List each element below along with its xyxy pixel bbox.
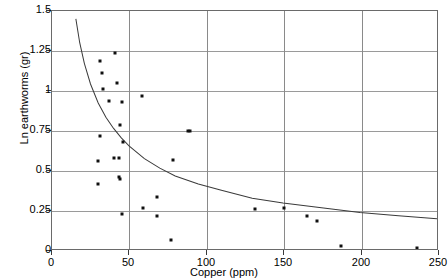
data-point (98, 59, 101, 62)
data-point (306, 214, 309, 217)
data-point (108, 99, 111, 102)
x-tick-mark (51, 250, 52, 255)
plot-area (51, 10, 438, 250)
data-point (102, 88, 105, 91)
x-tick-mark (128, 250, 129, 255)
data-point (156, 195, 159, 198)
x-tick-mark (206, 250, 207, 255)
y-tick-label: 0.25 (7, 204, 51, 215)
data-point (112, 157, 115, 160)
data-point (120, 213, 123, 216)
data-point (340, 245, 343, 248)
data-point (116, 82, 119, 85)
data-point (119, 178, 122, 181)
data-point (416, 246, 419, 249)
data-point (98, 134, 101, 137)
data-point (97, 182, 100, 185)
data-point (170, 238, 173, 241)
data-point (142, 206, 145, 209)
data-point (253, 208, 256, 211)
data-point (117, 157, 120, 160)
data-point (97, 160, 100, 163)
x-tick-mark (438, 250, 439, 255)
data-point (114, 51, 117, 54)
data-point (283, 206, 286, 209)
data-point (140, 94, 143, 97)
y-tick-label: 1.5 (7, 4, 51, 15)
data-point (315, 219, 318, 222)
trend-curve (52, 11, 437, 249)
data-point (171, 158, 174, 161)
data-point (119, 123, 122, 126)
data-point (156, 214, 159, 217)
data-point (188, 130, 191, 133)
y-tick-label: 0 (7, 244, 51, 255)
data-point (122, 141, 125, 144)
data-point (100, 72, 103, 75)
y-axis-title: Ln earthworms (gr) (18, 28, 30, 168)
x-tick-mark (361, 250, 362, 255)
x-tick-mark (283, 250, 284, 255)
data-point (120, 101, 123, 104)
x-axis-title: Copper (ppm) (0, 266, 448, 278)
